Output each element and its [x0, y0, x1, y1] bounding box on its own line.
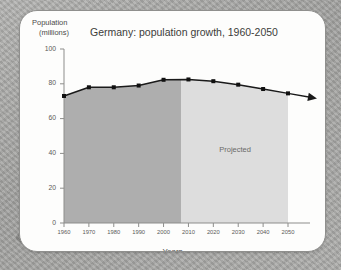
x-tick-label: 2030 [225, 229, 251, 235]
x-tick-label: 2010 [175, 229, 201, 235]
data-point-marker [87, 85, 91, 89]
x-tick-label: 1960 [51, 229, 77, 235]
x-tick-label: 2040 [250, 229, 276, 235]
y-tick-label: 100 [36, 45, 56, 52]
x-tick-label: 1990 [126, 229, 152, 235]
data-point-marker [137, 84, 141, 88]
data-point-marker [261, 87, 265, 91]
y-tick-label: 20 [36, 184, 56, 191]
chart-svg [20, 11, 325, 251]
data-point-marker [112, 85, 116, 89]
x-tick-label: 1970 [76, 229, 102, 235]
data-point-marker [186, 77, 190, 81]
y-tick-label: 80 [36, 79, 56, 86]
y-tick-label: 40 [36, 149, 56, 156]
y-tick-label: 60 [36, 114, 56, 121]
data-point-marker [62, 94, 66, 98]
x-tick-label: 1980 [101, 229, 127, 235]
data-point-marker [236, 83, 240, 87]
chart-card: Population (millions) Germany: populatio… [19, 10, 326, 252]
x-tick-label: 2050 [275, 229, 301, 235]
y-tick-label: 0 [36, 219, 56, 226]
data-point-marker [286, 91, 290, 95]
x-tick-label: 2020 [200, 229, 226, 235]
area-region-historical [64, 80, 181, 223]
data-point-marker [211, 79, 215, 83]
data-point-marker [162, 78, 166, 82]
chart-area: Population (millions) Germany: populatio… [20, 11, 325, 251]
projected-annotation: Projected [219, 145, 251, 154]
x-axis-title: Years [20, 247, 325, 252]
x-tick-label: 2000 [151, 229, 177, 235]
